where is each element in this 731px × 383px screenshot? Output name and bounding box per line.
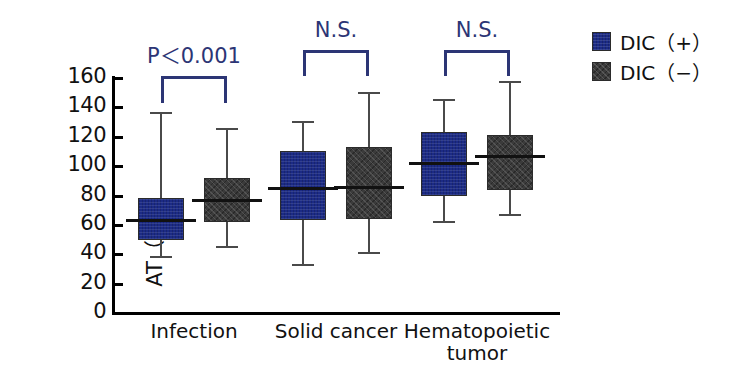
whisker-upper [509,82,511,135]
whisker-upper [160,113,162,198]
significance-bracket-bar [303,50,369,53]
whisker-lower [160,240,162,258]
whisker-cap-upper [358,92,380,94]
significance-bracket-leg-left [303,50,306,76]
whisker-cap-upper [499,81,521,83]
y-axis-title: AT（%） [138,168,168,318]
whisker-lower [226,222,228,247]
legend-swatch [592,62,611,81]
y-axis-tick-label: 100 [42,154,106,175]
whisker-cap-lower [358,252,380,254]
median-line [126,219,196,222]
y-axis-tick [112,136,123,139]
box-iqr [487,135,533,189]
y-axis-tick-label: 20 [42,272,106,293]
legend-item: DIC（+） [592,26,712,56]
legend-label: DIC（+） [620,27,712,56]
x-axis-line [112,312,560,315]
whisker-upper [226,129,228,177]
y-axis-tick-label: 40 [42,242,106,263]
y-axis-tick-label: 120 [42,125,106,146]
median-line [475,155,545,158]
whisker-upper [368,93,370,147]
y-axis-tick-label: 80 [42,184,106,205]
significance-bracket-bar [444,50,510,53]
median-line [334,186,404,189]
box-iqr [280,151,326,220]
whisker-lower [509,190,511,215]
whisker-cap-lower [150,256,172,258]
legend-label: DIC（−） [620,57,712,86]
legend: DIC（+）DIC（−） [592,26,712,86]
whisker-upper [302,122,304,151]
y-axis-tick-label: 140 [42,95,106,116]
significance-bracket-leg-right [507,50,510,76]
median-line [268,187,338,190]
whisker-lower [368,219,370,253]
x-axis-category-label-line: tumor [382,342,572,364]
y-axis-tick [112,106,123,109]
whisker-cap-upper [216,128,238,130]
y-axis-tick-label: 0 [42,301,106,322]
y-axis-tick [112,77,123,80]
significance-label: N.S. [407,20,547,41]
whisker-cap-lower [499,214,521,216]
significance-bracket-bar [161,76,227,79]
x-axis-category-label: Hematopoietictumor [382,320,572,364]
significance-bracket-leg-right [224,76,227,103]
y-axis-tick [112,312,123,315]
whisker-cap-upper [292,121,314,123]
median-line [192,199,262,202]
whisker-upper [443,100,445,132]
significance-label: P＜0.001 [124,46,264,67]
plot-area: AT（%） [112,78,560,313]
whisker-lower [443,196,445,222]
whisker-cap-lower [292,264,314,266]
significance-bracket-leg-left [444,50,447,76]
box-iqr [346,147,392,219]
whisker-cap-lower [216,246,238,248]
y-axis-tick-label: 160 [42,66,106,87]
x-axis-category-label-line: Hematopoietic [382,320,572,342]
significance-bracket-leg-right [366,50,369,76]
median-line [409,162,479,165]
whisker-cap-upper [150,112,172,114]
whisker-cap-upper [433,99,455,101]
whisker-lower [302,220,304,264]
legend-item: DIC（−） [592,56,712,86]
y-axis-tick [112,165,123,168]
y-axis-tick-label: 60 [42,213,106,234]
box-plot-figure: AT（%） 160140120100806040200 P＜0.001N.S.N… [0,0,731,383]
y-axis-tick [112,253,123,256]
y-axis-tick [112,283,123,286]
significance-label: N.S. [266,20,406,41]
y-axis-tick [112,224,123,227]
legend-swatch [592,32,611,51]
y-axis-tick [112,195,123,198]
whisker-cap-lower [433,221,455,223]
significance-bracket-leg-left [161,76,164,103]
